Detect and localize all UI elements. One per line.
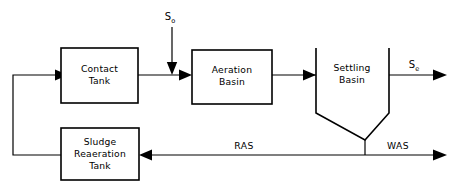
influent-subscript: o: [171, 17, 175, 25]
contact-to-aeration-arrow-icon: [179, 70, 192, 81]
settling-basin-label-line2: Basin: [339, 74, 365, 85]
ras-arrow-icon: [139, 150, 152, 161]
recycle-return-line: [13, 75, 61, 155]
aeration-basin-label-line2: Basin: [219, 76, 245, 87]
sludge-reaeration-tank-label-line1: Sludge: [84, 136, 117, 147]
contact-tank-label-line1: Contact: [81, 63, 118, 74]
ras-label: RAS: [234, 140, 253, 151]
contact-tank-label-line2: Tank: [88, 75, 111, 86]
settling-basin-label-line1: Settling: [333, 62, 370, 73]
process-flow-diagram: Contact Tank Aeration Basin Settling Bas…: [0, 0, 459, 190]
aeration-to-settling-arrow-icon: [303, 70, 316, 81]
effluent-arrow-icon: [433, 70, 447, 81]
effluent-label: Se: [409, 59, 419, 73]
flow-diagram-canvas: Contact Tank Aeration Basin Settling Bas…: [0, 0, 459, 190]
aeration-basin-label-line1: Aeration: [212, 64, 252, 75]
influent-label: So: [165, 11, 175, 25]
was-arrow-icon: [433, 150, 447, 161]
influent-arrow-icon: [167, 62, 177, 75]
sludge-reaeration-tank-label-line2: Reaeration: [74, 148, 126, 159]
was-label: WAS: [387, 140, 409, 151]
effluent-subscript: e: [415, 65, 419, 73]
sludge-reaeration-tank-label-line3: Tank: [88, 160, 111, 171]
